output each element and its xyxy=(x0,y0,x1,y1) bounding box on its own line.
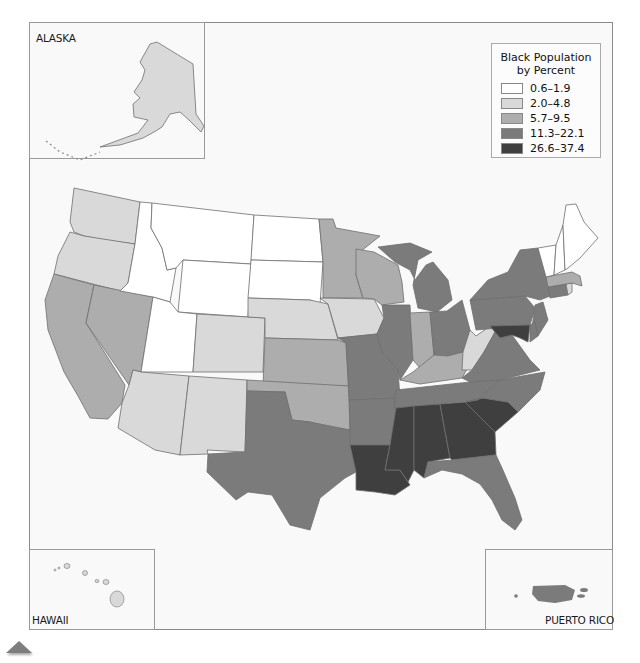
contiguous-states xyxy=(45,188,598,530)
puerto-rico-island xyxy=(514,585,588,603)
legend-title-line2: by Percent xyxy=(492,64,600,77)
state-CO xyxy=(193,314,265,372)
triangle-up-icon[interactable] xyxy=(6,641,32,653)
legend-label: 5.7–9.5 xyxy=(530,112,571,125)
legend-swatch xyxy=(501,128,523,139)
legend-swatch xyxy=(501,83,523,94)
legend-label: 26.6–37.4 xyxy=(530,142,584,155)
legend-swatch xyxy=(501,98,523,109)
state-ME xyxy=(563,204,598,270)
legend-label: 0.6–1.9 xyxy=(530,82,571,95)
legend-label: 11.3–22.1 xyxy=(530,127,584,140)
legend-label: 2.0–4.8 xyxy=(530,97,571,110)
legend-title: Black Population by Percent xyxy=(492,51,600,77)
legend-item: 5.7–9.5 xyxy=(501,111,600,126)
legend-title-line1: Black Population xyxy=(492,51,600,64)
legend-swatch xyxy=(501,143,523,154)
state-SD xyxy=(248,260,323,304)
alaska-aleutians xyxy=(46,141,100,160)
legend-item: 26.6–37.4 xyxy=(501,141,600,156)
legend-item: 0.6–1.9 xyxy=(501,81,600,96)
state-FL xyxy=(424,455,522,530)
state-WY xyxy=(178,260,251,317)
legend-item: 2.0–4.8 xyxy=(501,96,600,111)
state-MT xyxy=(151,203,254,270)
state-NM xyxy=(180,376,247,455)
legend-item: 11.3–22.1 xyxy=(501,126,600,141)
state-KS xyxy=(263,338,349,386)
state-ND xyxy=(251,215,323,262)
legend-swatch xyxy=(501,113,523,124)
state-alaska xyxy=(100,42,204,147)
state-NY xyxy=(470,248,550,300)
legend: Black Population by Percent 0.6–1.9 2.0–… xyxy=(491,43,601,158)
hawaii-islands xyxy=(54,564,124,608)
